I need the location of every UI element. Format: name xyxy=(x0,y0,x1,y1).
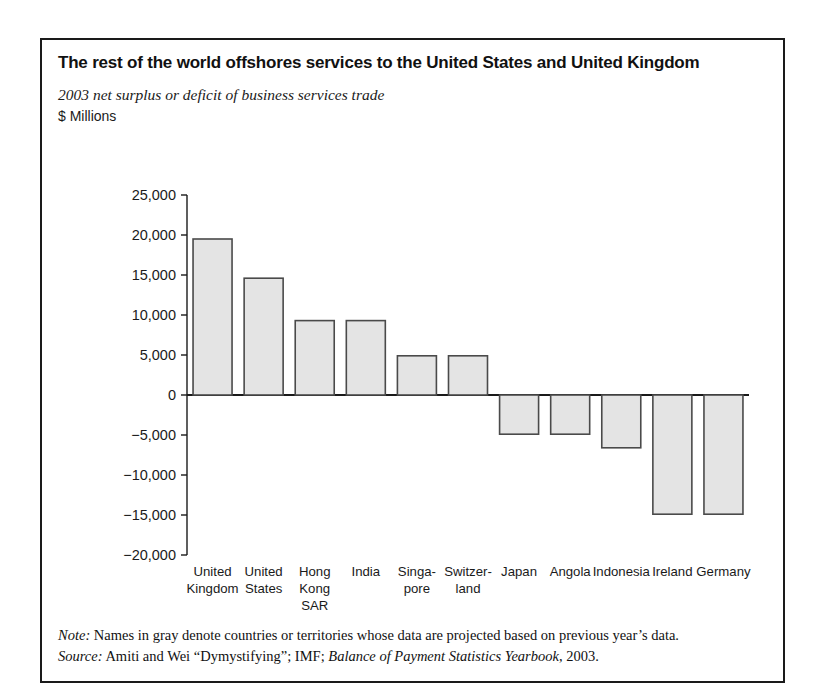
bar xyxy=(244,278,283,395)
y-axis-tick-label: 5,000 xyxy=(140,347,176,363)
x-axis-category-label: Japan xyxy=(501,564,537,579)
x-axis-category-label: Kingdom xyxy=(187,581,239,596)
bar xyxy=(653,395,692,514)
x-axis-category-label: Indonesia xyxy=(593,564,651,579)
bar xyxy=(704,395,743,514)
bar xyxy=(295,321,334,395)
bar-chart-plot: 25,00020,00015,00010,0005,0000−5,000−10,… xyxy=(42,40,787,685)
x-axis-category-label: United xyxy=(245,564,283,579)
bar xyxy=(602,395,641,448)
x-axis-category-label: land xyxy=(456,581,481,596)
x-axis-category-label: Switzer- xyxy=(444,564,492,579)
x-axis-category-label: Germany xyxy=(696,564,751,579)
x-axis-category-label: India xyxy=(352,564,381,579)
x-axis-category-label: SAR xyxy=(301,598,328,613)
y-axis-tick-label: 25,000 xyxy=(132,187,176,203)
y-axis-tick-label: 10,000 xyxy=(132,307,176,323)
y-axis-tick-label: −15,000 xyxy=(123,507,176,523)
x-axis-category-label: United xyxy=(193,564,231,579)
y-axis-tick-label: 20,000 xyxy=(132,227,176,243)
bar xyxy=(500,395,539,434)
source-text-a: Amiti and Wei “Dymystifying”; IMF; xyxy=(103,648,329,664)
x-axis-category-label: Singa- xyxy=(398,564,436,579)
source-label: Source: xyxy=(58,648,103,664)
x-axis-category-label: States xyxy=(245,581,283,596)
y-axis-tick-label: −10,000 xyxy=(123,467,176,483)
bar xyxy=(346,321,385,395)
source-text-b: , 2003. xyxy=(559,648,599,664)
x-axis-category-label: Kong xyxy=(299,581,330,596)
figure-panel: The rest of the world offshores services… xyxy=(40,38,785,683)
bar xyxy=(193,239,232,395)
x-axis-category-label: Hong xyxy=(299,564,331,579)
x-axis-category-label: Ireland xyxy=(652,564,692,579)
bar xyxy=(449,356,488,395)
figure-footnotes: Note: Names in gray denote countries or … xyxy=(58,625,769,667)
source-line: Source: Amiti and Wei “Dymystifying”; IM… xyxy=(58,646,769,667)
bar xyxy=(397,356,436,395)
y-axis-tick-label: −20,000 xyxy=(123,547,176,563)
source-publication: Balance of Payment Statistics Yearbook xyxy=(328,648,559,664)
y-axis-tick-label: 15,000 xyxy=(132,267,176,283)
note-text: Names in gray denote countries or territ… xyxy=(90,627,679,643)
bar xyxy=(551,395,590,434)
y-axis-tick-label: −5,000 xyxy=(131,427,176,443)
x-axis-category-label: Angola xyxy=(550,564,592,579)
note-label: Note: xyxy=(58,627,90,643)
note-line: Note: Names in gray denote countries or … xyxy=(58,625,769,646)
y-axis-tick-label: 0 xyxy=(168,387,176,403)
x-axis-category-label: pore xyxy=(404,581,430,596)
